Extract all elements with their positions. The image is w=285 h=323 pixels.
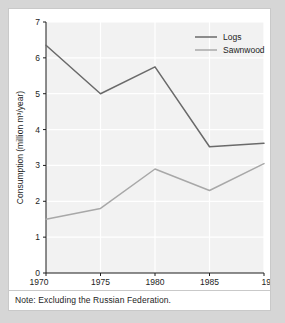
note-bar: Note: Excluding the Russian Federation.	[9, 290, 270, 310]
y-tick-label: 4	[35, 125, 40, 135]
y-tick-label: 6	[35, 53, 40, 63]
line-chart: 0123456719701975198019851990Consumption …	[9, 9, 270, 292]
x-tick-label: 1980	[146, 277, 165, 287]
y-tick-label: 1	[35, 232, 40, 242]
y-tick-label: 3	[35, 160, 40, 170]
x-tick-label: 1985	[200, 277, 219, 287]
y-tick-label: 7	[35, 17, 40, 27]
y-axis-title: Consumption (million m³/year)	[15, 91, 25, 205]
x-tick-label: 1970	[30, 277, 49, 287]
x-tick-label: 1975	[91, 277, 110, 287]
legend-label-logs: Logs	[223, 32, 241, 42]
legend-label-sawnwood: Sawnwood	[223, 45, 265, 55]
chart-note: Note: Excluding the Russian Federation.	[15, 295, 171, 305]
chart-area: 0123456719701975198019851990Consumption …	[9, 9, 270, 292]
x-tick-label: 1990	[262, 277, 270, 287]
y-tick-label: 5	[35, 89, 40, 99]
y-tick-label: 2	[35, 196, 40, 206]
figure-panel: 0123456719701975198019851990Consumption …	[8, 8, 271, 311]
